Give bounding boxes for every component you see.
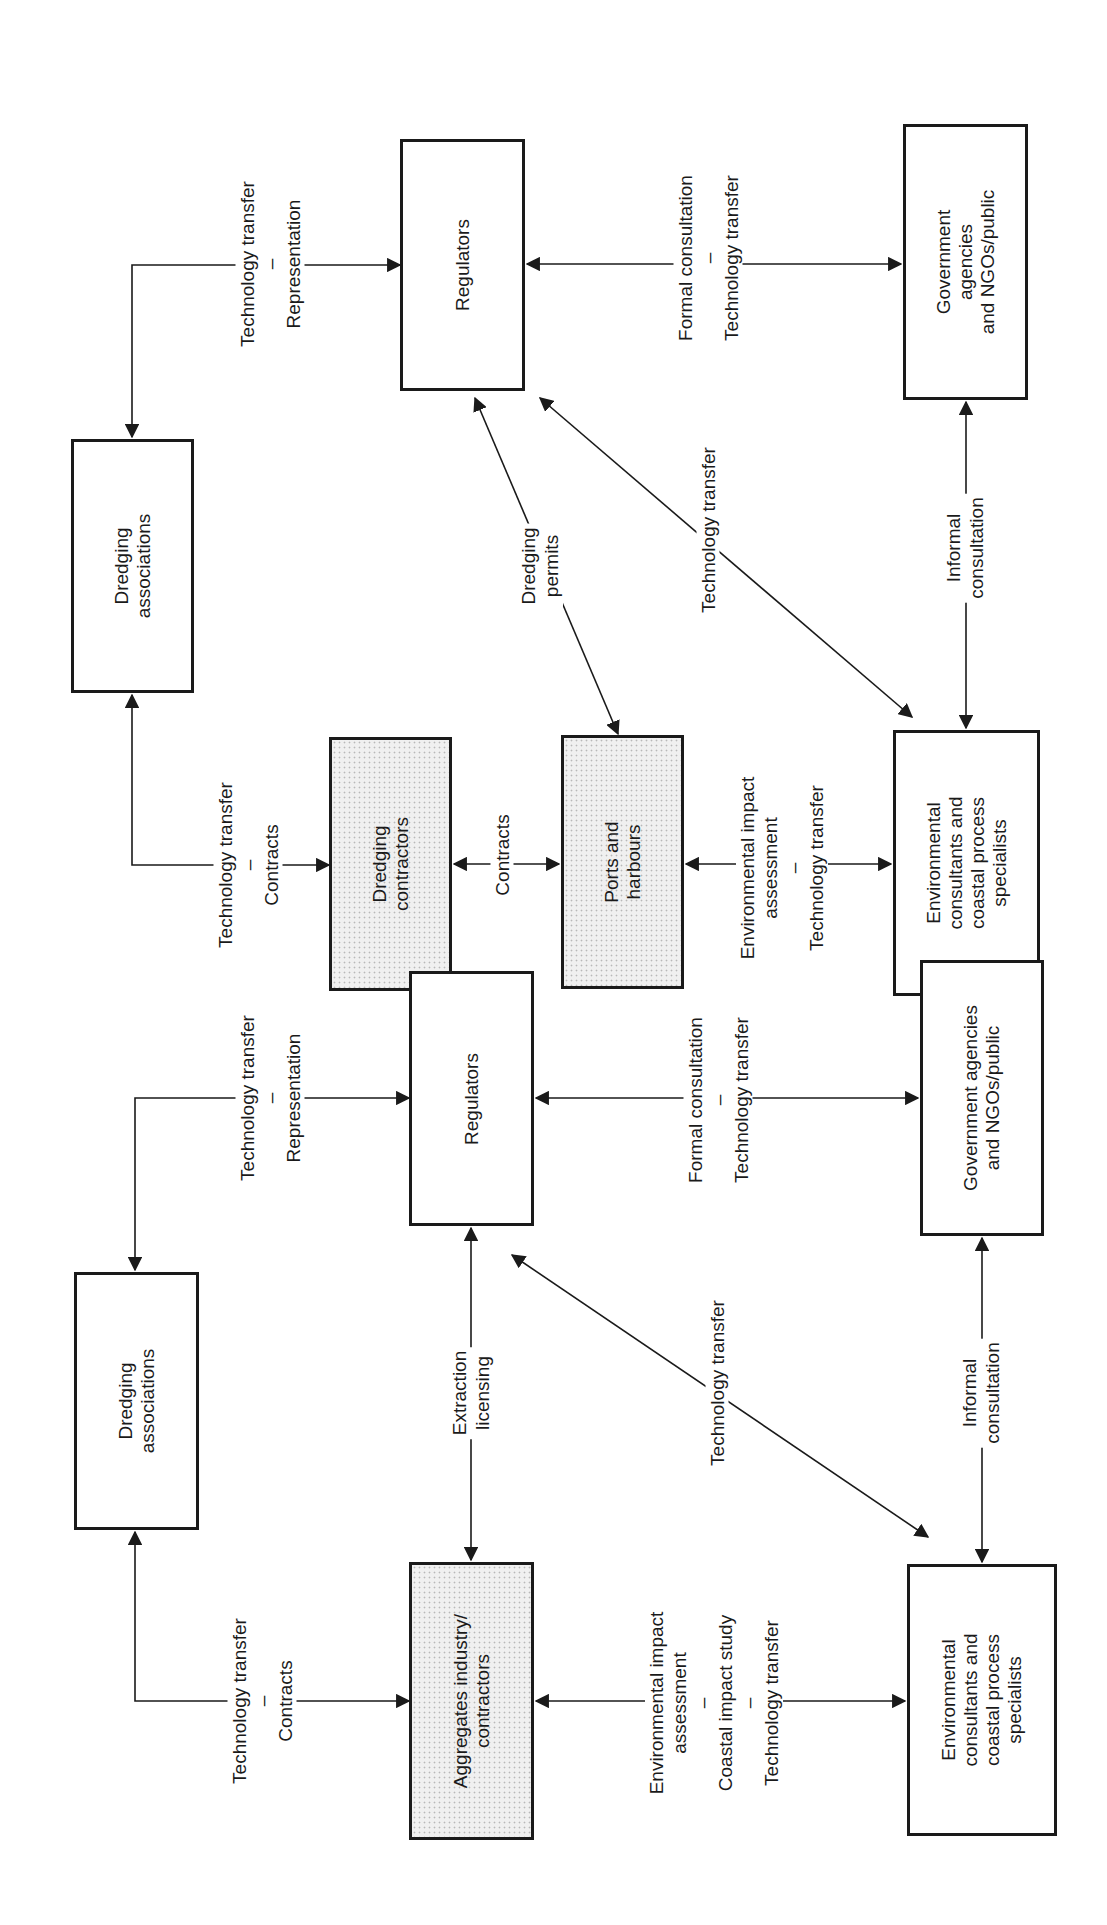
label-ports-regulators: Dredging permits: [517, 523, 563, 608]
node2-aggregates-industry: Aggregates industry/ contractors: [409, 1562, 534, 1840]
label2-aggregates-regulators: Extraction licensing: [448, 1347, 494, 1439]
label2-aggregates-env: Environmental impact assessment – Coasta…: [645, 1608, 783, 1799]
node-government-agencies: Government agencies and NGOs/public: [903, 124, 1028, 400]
label2-env-gov: Informal consultation: [958, 1338, 1004, 1447]
node2-dredging-associations: Dredging associations: [74, 1272, 199, 1530]
label2-assoc-regulators: Technology transfer – Representation: [236, 1011, 305, 1185]
label-regulators-env: Technology transfer: [697, 443, 720, 617]
node-dredging-associations: Dredging associations: [71, 439, 194, 693]
node2-environmental-consultants: Environmental consultants and coastal pr…: [907, 1564, 1057, 1836]
label-assoc-contractors: Technology transfer – Contracts: [214, 778, 283, 952]
node2-regulators: Regulators: [409, 971, 534, 1226]
label-regulators-gov: Formal consultation – Technology transfe…: [674, 171, 743, 345]
label-assoc-regulators: Technology transfer – Representation: [236, 177, 305, 351]
label2-regulators-gov: Formal consultation – Technology transfe…: [684, 1013, 753, 1187]
label-contractors-ports: Contracts: [491, 810, 514, 899]
node2-government-agencies: Government agencies and NGOs/public: [920, 960, 1044, 1236]
node-dredging-contractors: Dredging contractors: [329, 737, 452, 991]
label-env-gov: Informal consultation: [942, 493, 988, 602]
edge-regulators-env: [540, 398, 912, 717]
label2-regulators-env: Technology transfer: [706, 1296, 729, 1470]
label2-assoc-aggregates: Technology transfer – Contracts: [228, 1614, 297, 1788]
node-regulators: Regulators: [400, 139, 525, 391]
label-ports-env: Environmental impact assessment – Techno…: [736, 773, 828, 964]
node-ports-harbours: Ports and harbours: [561, 735, 684, 989]
node-environmental-consultants: Environmental consultants and coastal pr…: [893, 730, 1040, 996]
